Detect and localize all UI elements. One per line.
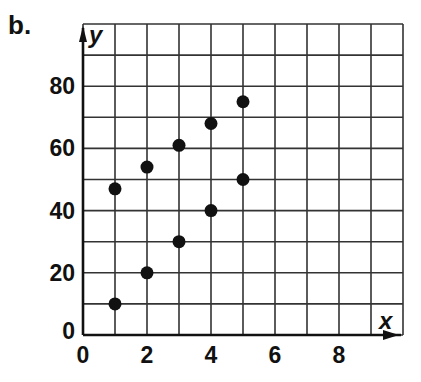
data-point: [141, 266, 154, 279]
y-axis-label: y: [88, 21, 104, 48]
data-point: [205, 204, 218, 217]
data-point: [141, 161, 154, 174]
data-point: [173, 235, 186, 248]
x-tick-label: 8: [333, 342, 346, 368]
y-tick-label: 60: [49, 135, 75, 161]
x-tick-label: 6: [269, 342, 282, 368]
data-point: [173, 139, 186, 152]
data-point: [205, 117, 218, 130]
x-tick-label: 0: [77, 342, 90, 368]
data-point: [109, 182, 122, 195]
y-axis-arrow-icon: [79, 26, 87, 42]
x-tick-label: 4: [205, 342, 218, 368]
y-tick-label: 80: [49, 73, 75, 99]
x-axis-label: x: [377, 307, 394, 334]
y-tick-label: 40: [49, 198, 75, 224]
data-point: [237, 173, 250, 186]
y-tick-label: 20: [49, 260, 75, 286]
data-point: [237, 95, 250, 108]
x-tick-label: 2: [141, 342, 154, 368]
scatter-chart: 02468020406080 x y: [0, 0, 421, 382]
y-tick-label: 0: [62, 318, 75, 344]
data-point: [109, 297, 122, 310]
